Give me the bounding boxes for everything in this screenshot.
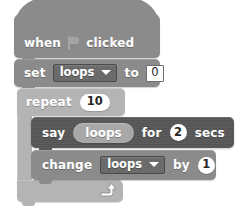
set-value-input[interactable]: 0 — [146, 65, 164, 82]
repeat-label: repeat — [26, 96, 72, 108]
block-say-for-secs[interactable]: say loops for 2 secs — [31, 117, 234, 148]
say-label: say — [42, 127, 65, 139]
say-variable-reporter[interactable]: loops — [73, 123, 133, 143]
scratch-script-canvas: when clicked set loops to 0 repeat 10 — [0, 0, 241, 216]
clicked-label: clicked — [86, 37, 134, 49]
change-block-bottom-bump — [39, 180, 52, 184]
say-duration-text: 2 — [174, 127, 182, 139]
change-label: change — [42, 159, 92, 171]
repeat-block-footer[interactable] — [17, 180, 123, 202]
hat-block-row: when clicked — [14, 28, 160, 58]
chevron-down-icon — [149, 162, 159, 167]
repeat-block-bottom-bump — [22, 202, 35, 206]
green-flag-icon — [67, 36, 80, 50]
hat-block-dome — [14, 0, 160, 28]
repeat-block-left-arm — [17, 114, 32, 182]
say-variable-name: loops — [85, 127, 121, 139]
set-to-label: to — [124, 67, 138, 79]
change-variable-name: loops — [107, 159, 142, 171]
block-when-flag-clicked[interactable]: when clicked — [14, 14, 160, 58]
change-variable-dropdown[interactable]: loops — [100, 156, 165, 175]
block-set-variable[interactable]: set loops to 0 — [14, 59, 160, 87]
say-duration-input[interactable]: 2 — [170, 124, 187, 141]
say-for-label: for — [142, 127, 162, 139]
set-value-text: 0 — [151, 67, 158, 79]
loop-arrow-icon — [99, 183, 116, 198]
when-label: when — [24, 37, 61, 49]
set-variable-dropdown[interactable]: loops — [53, 64, 118, 83]
repeat-times-input[interactable]: 10 — [80, 94, 110, 111]
repeat-times-text: 10 — [87, 96, 103, 108]
say-secs-label: secs — [195, 127, 225, 139]
change-amount-text: 1 — [202, 159, 210, 171]
set-variable-name: loops — [60, 67, 95, 79]
block-repeat-header[interactable]: repeat 10 — [17, 88, 125, 116]
block-change-variable[interactable]: change loops by 1 — [31, 150, 216, 180]
change-by-label: by — [173, 159, 190, 171]
change-amount-input[interactable]: 1 — [198, 157, 215, 174]
chevron-down-icon — [101, 70, 111, 75]
set-label: set — [24, 67, 46, 79]
